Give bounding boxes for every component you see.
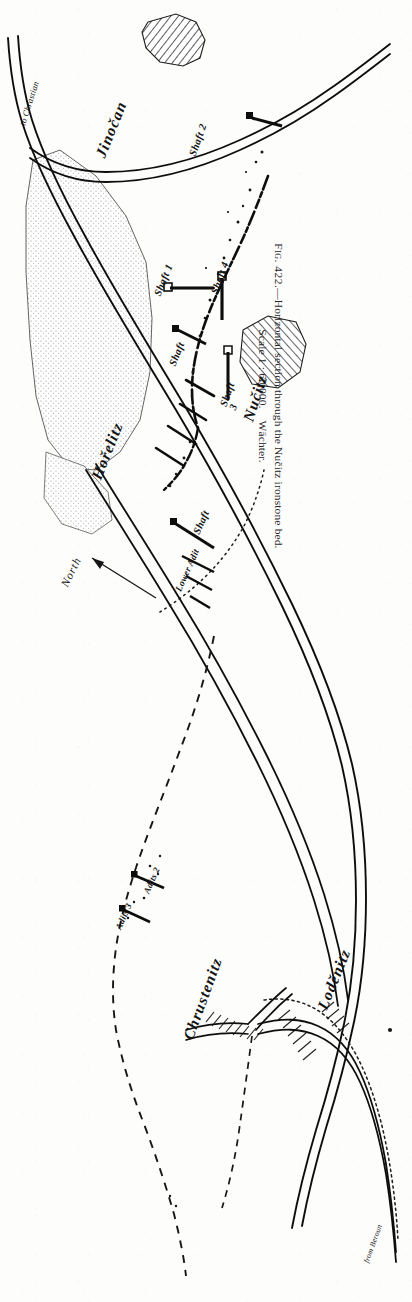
caption-dash: — — [273, 288, 285, 300]
figure-number: Fig. 422. — [273, 243, 285, 288]
map-canvas — [0, 0, 412, 1302]
caption-author: Wächter. — [257, 420, 269, 462]
ink-speck — [388, 1028, 392, 1032]
caption-scale: Scale 1 : 60,000. — [257, 329, 269, 408]
figure-caption: Fig. 422.—Horizontal section through the… — [255, 176, 286, 616]
map-figure — [0, 0, 412, 1302]
caption-title: Horizontal section through the Nučitz ir… — [273, 300, 285, 549]
figure-page: Jinočan to Chrastian Shaft 2 Shaft 1 Sha… — [0, 0, 412, 1302]
